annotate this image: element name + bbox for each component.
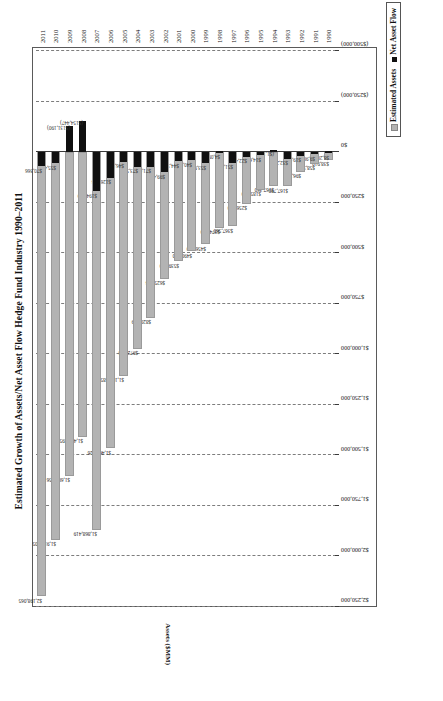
chart-legend: Estimated AssetsNet Asset Flow (386, 2, 401, 137)
tick-mark-7 (335, 252, 339, 253)
plot-area: $38,910$6,200$58,370$9,900$96,720$19,000… (36, 51, 336, 607)
bar-estimated-assets-2011 (37, 152, 46, 596)
bar-net-asset-flow-1990 (325, 151, 332, 153)
category-axis-labels: 1990199119921993199419951996199719981999… (36, 11, 336, 45)
category-label-2003: 2003 (148, 30, 155, 43)
tick-label-2000000: $2,000,000 (341, 547, 369, 554)
bar-net-asset-flow-1997 (229, 152, 236, 162)
bar-net-asset-flow-2000 (188, 152, 195, 160)
legend-swatch-flow (392, 57, 397, 62)
bar-estimated-assets-2008 (78, 152, 87, 437)
value-label-flow-2009: ($131,190) (47, 125, 70, 131)
legend-label-flow: Net Asset Flow (389, 8, 398, 55)
category-label-1995: 1995 (257, 30, 264, 43)
legend-item-estimated-assets: Estimated Assets (389, 69, 398, 131)
category-label-1992: 1992 (298, 30, 305, 43)
bar-net-asset-flow-2006 (107, 152, 114, 178)
tick-label-1000000: $1,000,000 (341, 345, 369, 352)
category-label-2008: 2008 (80, 30, 87, 43)
category-label-1993: 1993 (284, 30, 291, 43)
chart-figure: Estimated Growth of Assets/Net Asset Flo… (14, 9, 430, 693)
bar-net-asset-flow-1991 (311, 152, 318, 154)
category-label-2004: 2004 (134, 30, 141, 43)
axis-title: Assets ($MM) (164, 623, 172, 665)
category-label-1998: 1998 (216, 30, 223, 43)
value-label-flow-2011: $70,366 (25, 168, 42, 174)
value-label-assets-2011: $2,198,065 (19, 598, 42, 604)
bar-estimated-assets-2007 (92, 152, 101, 530)
bar-net-asset-flow-1996 (243, 152, 250, 157)
category-label-1991: 1991 (312, 30, 319, 43)
bar-net-asset-flow-2011 (38, 152, 45, 166)
category-label-1996: 1996 (243, 30, 250, 43)
tick-label-1750000: $1,750,000 (341, 496, 369, 503)
bar-net-asset-flow-2010 (52, 152, 59, 163)
tick-mark-6 (335, 303, 339, 304)
category-label-1999: 1999 (202, 30, 209, 43)
bar-net-asset-flow-2005 (120, 152, 127, 161)
tick-label-250000: $250,000 (341, 193, 364, 200)
tick-label-0: $0 (341, 143, 347, 150)
tick-mark-9 (335, 151, 339, 152)
gridline-0 (36, 606, 336, 607)
value-axis-ticks: $2,250,000$2,000,000$1,750,000$1,500,000… (339, 51, 415, 607)
category-label-2000: 2000 (189, 30, 196, 43)
bar-net-asset-flow-2004 (134, 152, 141, 167)
category-label-2010: 2010 (52, 30, 59, 43)
bar-estimated-assets-2009 (65, 152, 74, 476)
legend-label-assets: Estimated Assets (389, 69, 398, 122)
tick-label-750000: $750,000 (341, 294, 364, 301)
tick-mark-5 (335, 353, 339, 354)
bar-estimated-assets-2010 (51, 152, 60, 540)
legend-item-net-asset-flow: Net Asset Flow (389, 8, 398, 62)
bar-estimated-assets-2006 (106, 152, 115, 448)
category-label-2007: 2007 (93, 30, 100, 43)
tick-mark-0 (335, 606, 339, 607)
bar-estimated-assets-1994 (269, 152, 278, 186)
bar-estimated-assets-2005 (119, 152, 128, 375)
gridline-11 (36, 50, 336, 51)
gridline-3 (36, 454, 336, 455)
bar-estimated-assets-2004 (133, 152, 142, 349)
tick-mark-8 (335, 202, 339, 203)
tick-label-2250000: $2,250,000 (341, 597, 369, 604)
tick-label-500000: $500,000 (341, 244, 364, 251)
bar-net-asset-flow-1993 (284, 152, 291, 159)
category-label-1990: 1990 (325, 30, 332, 43)
bar-net-asset-flow-2001 (175, 152, 182, 161)
gridline-1 (36, 555, 336, 556)
category-label-2002: 2002 (162, 30, 169, 43)
tick-mark-2 (335, 505, 339, 506)
tick-mark-4 (335, 404, 339, 405)
tick-mark-3 (335, 454, 339, 455)
tick-mark-10 (335, 101, 339, 102)
tick-mark-11 (335, 50, 339, 51)
bar-net-asset-flow-2007 (93, 152, 100, 191)
bar-net-asset-flow-1998 (216, 151, 223, 153)
value-label-assets-2007: $1,868,419 (74, 531, 97, 537)
gridline-2 (36, 505, 336, 506)
category-label-2006: 2006 (107, 30, 114, 43)
category-label-2009: 2009 (66, 30, 73, 43)
category-label-1997: 1997 (230, 30, 237, 43)
legend-swatch-assets (391, 124, 398, 131)
bar-estimated-assets-2003 (146, 152, 155, 318)
category-label-1994: 1994 (271, 30, 278, 43)
bar-net-asset-flow-2002 (161, 152, 168, 172)
tick-label-1250000: $1,250,000 (341, 395, 369, 402)
category-label-2011: 2011 (39, 30, 46, 43)
gridline-10 (36, 101, 336, 102)
chart-title: Estimated Growth of Assets/Net Asset Flo… (14, 9, 24, 693)
bar-net-asset-flow-1995 (257, 152, 264, 155)
category-label-2001: 2001 (175, 30, 182, 43)
bar-estimated-assets-1998 (215, 152, 224, 228)
tick-label-1500000: $1,500,000 (341, 446, 369, 453)
category-label-2005: 2005 (121, 30, 128, 43)
tick-label-500000: ($500,000) (341, 41, 368, 48)
bar-net-asset-flow-1999 (202, 152, 209, 163)
chart-canvas: Estimated Growth of Assets/Net Asset Flo… (0, 0, 443, 701)
tick-mark-1 (335, 555, 339, 556)
bar-net-asset-flow-1992 (297, 152, 304, 156)
tick-label-250000: ($250,000) (341, 92, 368, 99)
bar-net-asset-flow-2003 (147, 152, 154, 166)
